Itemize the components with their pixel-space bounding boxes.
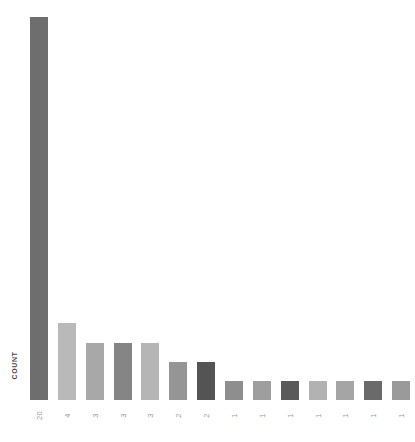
x-axis-tick: 20 [30, 401, 48, 435]
y-axis-label: COUNT [11, 342, 18, 390]
plot-area [25, 10, 415, 400]
x-axis-tick: 1 [336, 401, 354, 435]
x-axis-tick-label: 1 [341, 413, 350, 417]
x-axis-tick-label: 2 [174, 413, 183, 417]
bar [58, 323, 76, 400]
x-axis-tick: 3 [141, 401, 159, 435]
x-axis-tick-label: 2 [202, 413, 211, 417]
x-axis-tick: 1 [392, 401, 410, 435]
bar [169, 362, 187, 400]
x-axis-tick-label: 3 [118, 413, 127, 417]
bar [281, 381, 299, 400]
bar [364, 381, 382, 400]
bar-chart: COUNT 204333221111111 [0, 0, 415, 442]
bar [114, 343, 132, 400]
x-axis-tick-label: 1 [397, 413, 406, 417]
x-axis-tick-label: 1 [285, 413, 294, 417]
x-axis-tick: 4 [58, 401, 76, 435]
x-axis-tick-labels: 204333221111111 [25, 401, 415, 441]
bar [309, 381, 327, 400]
x-axis-tick: 1 [253, 401, 271, 435]
x-axis-tick-label: 1 [313, 413, 322, 417]
x-axis-tick-label: 3 [146, 413, 155, 417]
x-axis-tick: 1 [364, 401, 382, 435]
bar [197, 362, 215, 400]
y-axis-label-container: COUNT [6, 340, 20, 400]
bar [225, 381, 243, 400]
chart-title [0, 0, 415, 6]
bar [336, 381, 354, 400]
x-axis-tick: 2 [197, 401, 215, 435]
x-axis-tick: 1 [309, 401, 327, 435]
bar [30, 17, 48, 400]
x-axis-tick-label: 1 [257, 413, 266, 417]
x-axis-tick: 2 [169, 401, 187, 435]
x-axis-tick: 3 [114, 401, 132, 435]
bar [392, 381, 410, 400]
x-axis-tick-label: 4 [62, 413, 71, 417]
x-axis-tick: 1 [281, 401, 299, 435]
x-axis-tick-label: 3 [90, 413, 99, 417]
x-axis-tick-label: 20 [34, 411, 43, 420]
bar [86, 343, 104, 400]
x-axis-tick-label: 1 [229, 413, 238, 417]
bar [253, 381, 271, 400]
x-axis-tick-label: 1 [369, 413, 378, 417]
bar [141, 343, 159, 400]
x-axis-tick: 1 [225, 401, 243, 435]
x-axis-tick: 3 [86, 401, 104, 435]
